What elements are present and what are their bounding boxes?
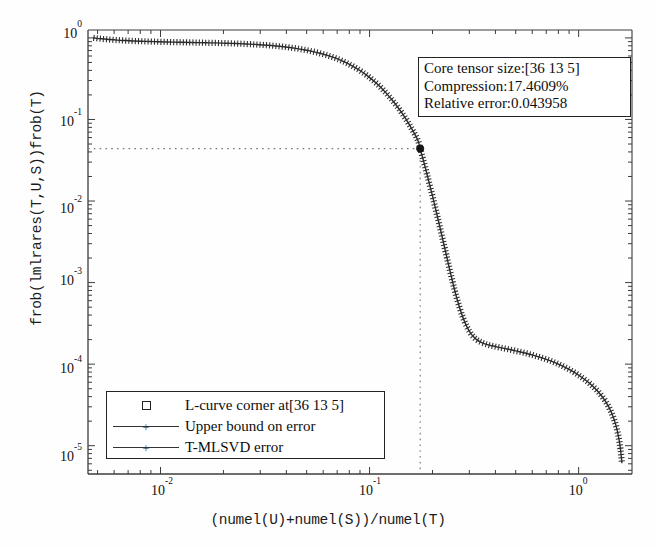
x-axis-label: (numel(U)+numel(S))/numel(T)	[0, 512, 656, 528]
line-plus-marker-icon-2: +	[107, 437, 185, 458]
xtick-label-1e0: 100	[543, 481, 613, 499]
xtick-label-1e-1: 10-1	[335, 481, 405, 499]
legend: L-curve corner at[36 13 5] + Upper bound…	[106, 391, 385, 459]
ytick-label-1e-5: 10-5	[36, 447, 82, 465]
core-tensor-size-text: Core tensor size:[36 13 5]	[424, 60, 626, 78]
compression-text: Compression:17.4609%	[424, 78, 626, 96]
square-marker-icon	[107, 395, 185, 416]
line-plus-marker-icon: +	[107, 416, 185, 437]
legend-item-corner: L-curve corner at[36 13 5]	[107, 395, 384, 416]
ytick-label-1e0: 100	[36, 24, 82, 42]
relative-error-text: Relative error:0.043958	[424, 95, 626, 113]
legend-label-tmlsvd: T-MLSVD error	[185, 439, 283, 456]
legend-label-upper-bound: Upper bound on error	[185, 418, 315, 435]
legend-item-tmlsvd: + T-MLSVD error	[107, 437, 384, 458]
info-box: Core tensor size:[36 13 5] Compression:1…	[418, 57, 631, 117]
legend-item-upper-bound: + Upper bound on error	[107, 416, 384, 437]
legend-label-corner: L-curve corner at[36 13 5]	[185, 397, 344, 414]
l-curve-corner-marker	[417, 145, 424, 152]
xtick-label-1e-2: 10-2	[127, 481, 197, 499]
y-axis-label: frob(lmlrares(T,U,S))frob(T)	[29, 43, 45, 373]
